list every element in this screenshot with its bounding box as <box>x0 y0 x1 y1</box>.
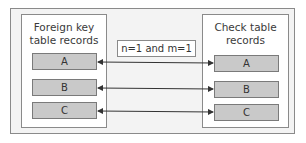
arrow-b-to-b <box>98 88 213 89</box>
arrow-a-to-a <box>98 62 213 63</box>
arrow-c-to-c <box>98 111 213 112</box>
connection-arrows <box>0 0 306 143</box>
